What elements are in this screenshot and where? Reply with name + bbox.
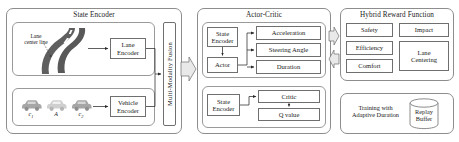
lane-encoder-box: Lane Encoder bbox=[110, 38, 146, 59]
vehicle-label-c2: c2 bbox=[74, 111, 88, 119]
critic-box: Critic bbox=[258, 90, 320, 103]
reward-comfort-box: Comfort bbox=[346, 59, 393, 73]
output-duration-box: Duration bbox=[256, 60, 321, 74]
panel-actor-critic-title: Actor-Critic bbox=[198, 11, 330, 20]
actor-state-encoder-box: State Encoder bbox=[207, 27, 238, 47]
reward-safety-box: Safety bbox=[346, 23, 393, 37]
critic-state-encoder-box: State Encoder bbox=[207, 94, 240, 116]
output-acceleration-box: Acceleration bbox=[256, 26, 321, 40]
panel-state-encoder-title: State Encoder bbox=[7, 11, 181, 20]
actor-box: Actor bbox=[207, 57, 238, 73]
replay-buffer-label: Replay Buffer bbox=[410, 108, 438, 122]
lane-center-line-caption: Lane center line bbox=[20, 33, 52, 45]
reward-efficiency-box: Efficiency bbox=[346, 41, 393, 55]
reward-lane-centering-box: Lane Centering bbox=[399, 41, 449, 71]
training-adaptive-duration-label: Training with Adaptive Duration bbox=[344, 104, 407, 118]
output-steering-angle-box: Steering Angle bbox=[256, 43, 321, 57]
diagram-canvas: State Encoder Lane center line Lane Enco… bbox=[0, 0, 459, 142]
multi-modality-fusion-label: Multi-Modality Fusion bbox=[166, 42, 173, 106]
panel-hybrid-reward-title: Hybrid Reward Function bbox=[341, 11, 453, 20]
block-arrow-right-icon bbox=[181, 57, 196, 81]
vehicle-encoder-box: Vehicle Encoder bbox=[110, 96, 146, 117]
q-value-box: Q value bbox=[258, 108, 320, 121]
reward-impact-box: Impact bbox=[399, 23, 449, 37]
vehicle-label-c1: c1 bbox=[24, 111, 38, 119]
vehicle-label-a: A bbox=[49, 111, 63, 119]
multi-modality-fusion-bar: Multi-Modality Fusion bbox=[163, 22, 176, 126]
